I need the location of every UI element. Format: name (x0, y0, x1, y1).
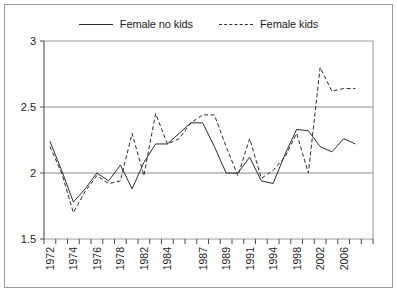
y-tick-label: 2 (4, 167, 36, 179)
x-tick-label: 2002 (314, 247, 326, 270)
y-tick-label: 1.5 (4, 233, 36, 245)
chart-figure: Female no kids Female kids 32.521.519721… (0, 0, 397, 292)
x-tick-label: 1982 (138, 247, 150, 270)
plot-frame (44, 41, 373, 239)
x-tick-label: 1989 (220, 247, 232, 270)
x-tick-label: 1987 (197, 247, 209, 270)
x-tick-label: 1972 (44, 247, 56, 270)
y-tick-label: 3 (4, 35, 36, 47)
x-tick-label: 1978 (114, 247, 126, 270)
series-line-female-kids (50, 67, 356, 212)
x-tick-label: 1991 (244, 247, 256, 270)
x-tick-label: 1994 (267, 247, 279, 270)
x-tick-label: 1974 (67, 247, 79, 270)
y-tick-label: 2.5 (4, 101, 36, 113)
series-line-female-no-kids (50, 123, 356, 202)
x-tick-label: 1976 (91, 247, 103, 270)
x-tick-label: 2006 (338, 247, 350, 270)
plot-area: 32.521.519721974197619781982198419871989… (0, 0, 397, 292)
x-tick-label: 1998 (291, 247, 303, 270)
x-tick-label: 1984 (161, 247, 173, 270)
